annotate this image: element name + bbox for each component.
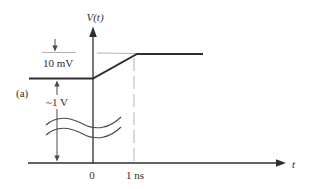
- step-size-label: 10 mV: [43, 57, 73, 69]
- origin-tick-label: 0: [89, 169, 95, 181]
- waveform-plot: V(t) 10 mV ~1 V (a) 0 1 ns t: [0, 0, 314, 189]
- step-dimension-down-arrow: [52, 39, 57, 52]
- panel-label: (a): [16, 87, 29, 100]
- top-level-reference-line-right: [97, 53, 136, 54]
- baseline-dimension-arrows: [54, 81, 59, 162]
- y-axis-label: V(t): [86, 11, 103, 24]
- baseline-level-label: ~1 V: [46, 96, 68, 108]
- y-axis-arrow-icon: [89, 27, 97, 38]
- x-axis-arrow-icon: [276, 159, 286, 167]
- time-tick-label: 1 ns: [126, 169, 144, 181]
- waveform-figure-panel-a: V(t) 10 mV ~1 V (a) 0 1 ns t: [0, 0, 314, 189]
- x-axis-label: t: [292, 158, 296, 170]
